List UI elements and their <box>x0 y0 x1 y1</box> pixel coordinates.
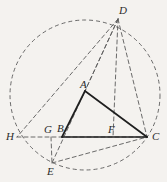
segment-EC <box>52 137 147 163</box>
point-label-d: D <box>119 5 127 16</box>
point-label-b: B <box>57 123 64 134</box>
point-label-h: H <box>6 131 14 142</box>
figure-canvas <box>0 0 167 182</box>
segment-GE <box>51 137 52 163</box>
segment-DH <box>17 19 118 137</box>
segment-AB <box>62 91 85 137</box>
point-label-g: G <box>44 124 52 135</box>
point-label-c: C <box>152 131 159 142</box>
point-label-e: E <box>47 166 54 177</box>
circumcircle-outline <box>10 20 160 170</box>
point-label-a: A <box>80 79 87 90</box>
point-label-f: F <box>108 124 115 135</box>
segment-DF <box>113 19 118 137</box>
geometry-figure: ABCDEFGH <box>0 0 167 182</box>
